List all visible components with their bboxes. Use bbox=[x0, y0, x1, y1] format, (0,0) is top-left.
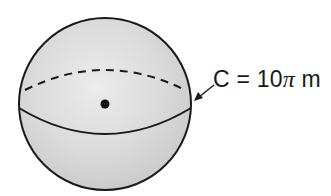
label-equals: = bbox=[236, 66, 250, 92]
label-unit: m bbox=[301, 66, 320, 92]
label-coefficient: 10 bbox=[257, 66, 283, 92]
arrow-line bbox=[199, 85, 214, 97]
arrow-head-icon bbox=[194, 92, 203, 101]
center-point bbox=[101, 100, 110, 109]
label-pi: π bbox=[283, 66, 295, 92]
circumference-label: C = 10π m bbox=[213, 66, 321, 93]
sphere-diagram bbox=[0, 0, 331, 196]
label-variable: C bbox=[213, 66, 230, 92]
